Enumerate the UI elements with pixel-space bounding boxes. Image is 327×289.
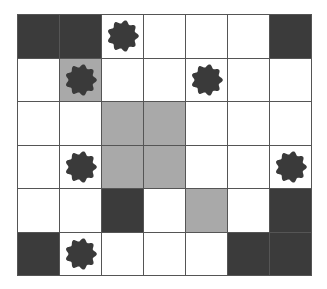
board-cell-r1-c1[interactable] <box>60 59 101 102</box>
board-cell-r2-c1[interactable] <box>60 102 101 145</box>
board-cell-r1-c4[interactable] <box>186 59 227 102</box>
board-cell-r3-c0[interactable] <box>18 146 59 189</box>
board-cell-r5-c2[interactable] <box>102 233 143 276</box>
board-cell-r3-c3[interactable] <box>144 146 185 189</box>
board-cell-r5-c1[interactable] <box>60 233 101 276</box>
board-cell-r0-c1[interactable] <box>60 15 101 58</box>
board-cell-r5-c0[interactable] <box>18 233 59 276</box>
board-cell-r4-c6[interactable] <box>270 189 311 232</box>
board-cell-r1-c0[interactable] <box>18 59 59 102</box>
board-cell-r3-c1[interactable] <box>60 146 101 189</box>
board-cell-r1-c3[interactable] <box>144 59 185 102</box>
board-cell-r0-c5[interactable] <box>228 15 269 58</box>
board-cell-r2-c2[interactable] <box>102 102 143 145</box>
flower-icon[interactable] <box>275 151 307 183</box>
board-cell-r4-c1[interactable] <box>60 189 101 232</box>
board-cell-r5-c4[interactable] <box>186 233 227 276</box>
board-cell-r0-c2[interactable] <box>102 15 143 58</box>
board-cell-r2-c6[interactable] <box>270 102 311 145</box>
game-board <box>17 14 312 276</box>
board-cell-r1-c5[interactable] <box>228 59 269 102</box>
board-cell-r2-c0[interactable] <box>18 102 59 145</box>
board-cell-r3-c5[interactable] <box>228 146 269 189</box>
board-cell-r4-c3[interactable] <box>144 189 185 232</box>
board-cell-r2-c4[interactable] <box>186 102 227 145</box>
board-cell-r4-c4[interactable] <box>186 189 227 232</box>
board-cell-r5-c6[interactable] <box>270 233 311 276</box>
board-cell-r0-c4[interactable] <box>186 15 227 58</box>
flower-icon[interactable] <box>65 64 97 96</box>
board-cell-r2-c5[interactable] <box>228 102 269 145</box>
board-cell-r3-c4[interactable] <box>186 146 227 189</box>
board-cell-r4-c2[interactable] <box>102 189 143 232</box>
flower-icon[interactable] <box>191 64 223 96</box>
board-cell-r4-c5[interactable] <box>228 189 269 232</box>
flower-icon[interactable] <box>65 238 97 270</box>
board-cell-r3-c6[interactable] <box>270 146 311 189</box>
board-cell-r0-c0[interactable] <box>18 15 59 58</box>
board-cell-r5-c5[interactable] <box>228 233 269 276</box>
board-cell-r1-c2[interactable] <box>102 59 143 102</box>
board-cell-r5-c3[interactable] <box>144 233 185 276</box>
board-cell-r3-c2[interactable] <box>102 146 143 189</box>
flower-icon[interactable] <box>107 20 139 52</box>
board-cell-r0-c6[interactable] <box>270 15 311 58</box>
flower-icon[interactable] <box>65 151 97 183</box>
board-cell-r2-c3[interactable] <box>144 102 185 145</box>
board-cell-r1-c6[interactable] <box>270 59 311 102</box>
board-cell-r4-c0[interactable] <box>18 189 59 232</box>
board-cell-r0-c3[interactable] <box>144 15 185 58</box>
